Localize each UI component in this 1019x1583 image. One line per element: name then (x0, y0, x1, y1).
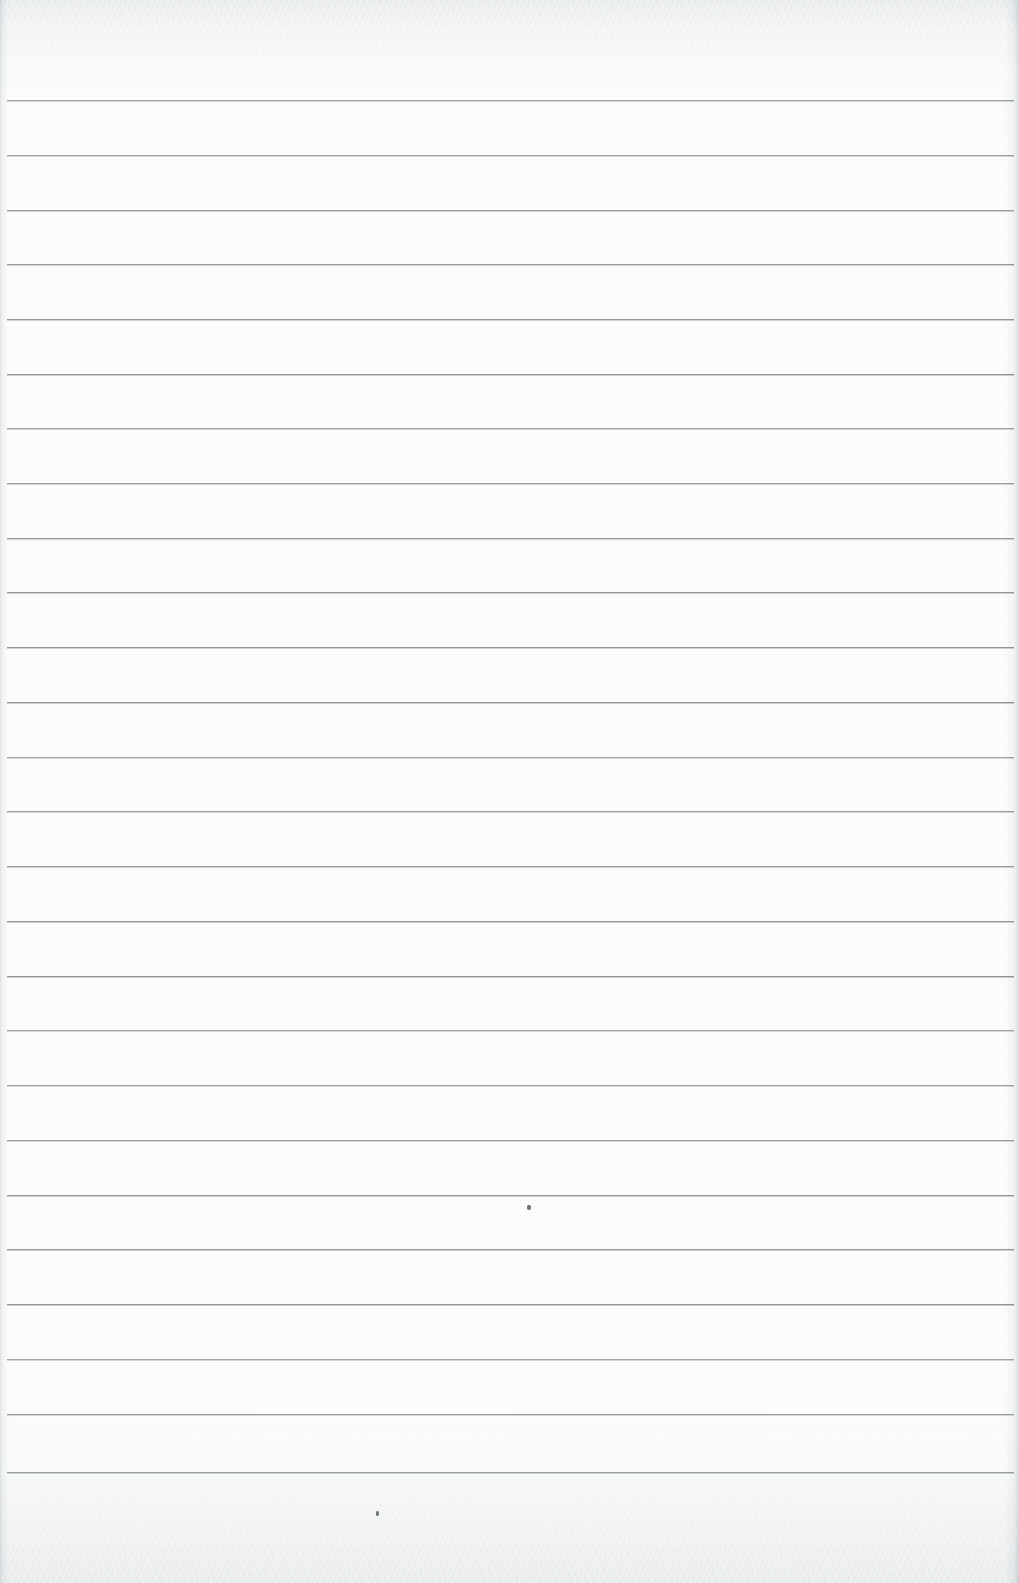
ruled-line (7, 1472, 1014, 1473)
ruled-line (7, 155, 1014, 156)
ruled-line (7, 374, 1014, 375)
ruled-line (7, 1304, 1014, 1305)
top-margin-grain (0, 0, 1019, 100)
ruled-line (7, 264, 1014, 265)
ruled-line (7, 702, 1014, 703)
ruled-line (7, 483, 1014, 484)
scan-texture-overlay (0, 0, 1019, 1583)
ruled-line (7, 1030, 1014, 1031)
ruled-line (7, 1195, 1014, 1196)
ruled-line (7, 1414, 1014, 1415)
speck-lower-margin (376, 1511, 379, 1516)
ruled-line (7, 647, 1014, 648)
ruled-line (7, 319, 1014, 320)
ruled-line (7, 210, 1014, 211)
ruled-line (7, 757, 1014, 758)
right-page-edge-shadow (1005, 0, 1019, 1583)
ruled-line (7, 100, 1014, 101)
scanned-page (0, 0, 1019, 1583)
left-page-edge-shadow (0, 0, 9, 1583)
ruled-line (7, 976, 1014, 977)
ruled-line (7, 866, 1014, 867)
ruled-line (7, 1249, 1014, 1250)
ruled-line (7, 1085, 1014, 1086)
ruled-line (7, 921, 1014, 922)
ruled-line (7, 428, 1014, 429)
ruled-line (7, 592, 1014, 593)
speck-mid-page (527, 1205, 531, 1210)
ruled-line (7, 811, 1014, 812)
ruled-line (7, 1140, 1014, 1141)
bottom-margin-grain (0, 1433, 1019, 1583)
ruled-line (7, 538, 1014, 539)
ruled-line (7, 1359, 1014, 1360)
